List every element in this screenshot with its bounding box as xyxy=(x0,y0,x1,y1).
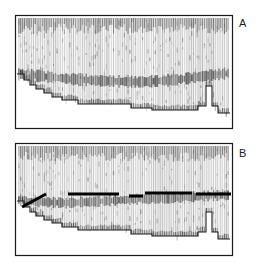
panel-a xyxy=(16,16,233,129)
panel-label-b: B xyxy=(239,148,247,159)
panel-label-a: A xyxy=(239,18,247,29)
bottom-trace-line xyxy=(17,201,230,239)
seismic-profile-figure: A B xyxy=(0,0,263,267)
panel-b xyxy=(16,144,233,256)
figure-canvas xyxy=(0,0,263,267)
trace-group xyxy=(19,18,228,117)
